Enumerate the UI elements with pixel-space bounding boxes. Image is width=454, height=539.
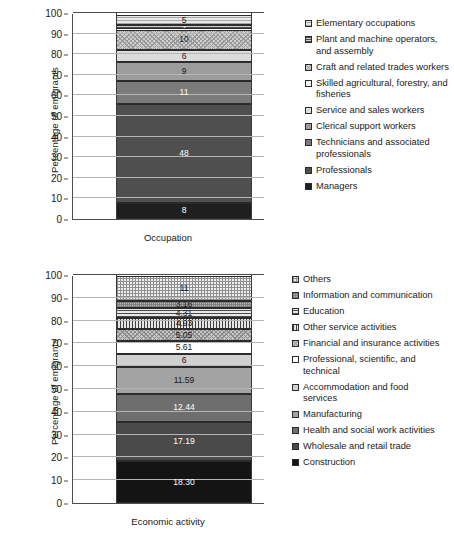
bar-segment[interactable]: 11 — [117, 81, 251, 104]
legend-item-label: Elementary occupations — [316, 18, 415, 30]
legend-item-label: Craft and related trades workers — [316, 62, 449, 74]
bar-segment[interactable]: 12.44 — [117, 394, 251, 422]
legend-item[interactable]: Education — [292, 306, 441, 318]
bar-segment-value: 11.59 — [174, 376, 195, 385]
bar-segment[interactable]: 3.16 — [117, 301, 251, 308]
legend-item[interactable]: Managers — [305, 181, 454, 193]
y-axis-tick-mark — [64, 96, 68, 97]
bar-segment[interactable]: 48 — [117, 104, 251, 203]
legend-item-label: Clerical support workers — [316, 121, 416, 133]
legend-item[interactable]: Service and sales workers — [305, 105, 454, 117]
legend-item[interactable]: Construction — [292, 457, 441, 469]
legend-swatch-icon — [292, 308, 299, 315]
legend-item-label: Technicians and associated professionals — [316, 137, 454, 160]
y-axis-tick-label: 80 — [51, 317, 62, 327]
legend-item[interactable]: Wholesale and retail trade — [292, 441, 441, 453]
legend-swatch-icon — [292, 324, 299, 331]
gridline — [73, 136, 264, 137]
bar-segment-value: 12.44 — [173, 403, 194, 412]
y-axis-tick-label: 10 — [51, 194, 62, 204]
legend-swatch-icon — [292, 443, 299, 450]
legend-item-label: Wholesale and retail trade — [303, 441, 411, 453]
gridline — [73, 297, 264, 298]
y-axis-tick-mark — [64, 276, 68, 277]
bar-segment-value: 11 — [180, 88, 189, 97]
bar-segment[interactable]: 5 — [117, 15, 251, 25]
legend-item[interactable]: Manufacturing — [292, 409, 441, 421]
legend-item-label: Construction — [303, 457, 355, 469]
bar-segment-value: 6 — [182, 356, 187, 365]
legend-item[interactable]: Craft and related trades workers — [305, 62, 454, 74]
y-axis-tick-label: 100 — [45, 9, 62, 19]
y-axis-tick-label: 90 — [51, 30, 62, 40]
legend-item[interactable]: Health and social work activities — [292, 425, 441, 437]
y-axis-tick-label: 0 — [56, 499, 62, 509]
y-axis-tick-label: 50 — [51, 385, 62, 395]
bar-segment-value: 11 — [180, 284, 189, 293]
gridline — [73, 74, 264, 75]
bar-segment[interactable]: 4.31 — [117, 308, 251, 318]
legend-swatch-icon — [292, 292, 299, 299]
legend-item[interactable]: Other service activities — [292, 322, 441, 334]
legend-item[interactable]: Technicians and associated professionals — [305, 137, 454, 160]
legend-item-label: Information and communication — [303, 290, 433, 302]
bar-segment[interactable]: 11.59 — [117, 367, 251, 393]
y-axis-tick-mark — [64, 367, 68, 368]
gridline — [73, 94, 264, 95]
legend-item-label: Accommodation and food services — [303, 382, 441, 405]
chart-occupation: Percentage of emigrants 0102030405060708… — [0, 0, 454, 262]
legend-item[interactable]: Professionals — [305, 165, 454, 177]
bar-segment[interactable]: 8 — [117, 203, 251, 219]
y-axis-tick-label: 20 — [51, 174, 62, 184]
y-axis-tick-mark — [64, 14, 68, 15]
y-axis-tick-label: 30 — [51, 153, 62, 163]
y-axis-tick-label: 80 — [51, 50, 62, 60]
legend-swatch-icon — [305, 36, 312, 43]
gridline — [73, 197, 264, 198]
y-axis-ticks-occupation: 0102030405060708090100 — [26, 14, 68, 220]
legend-swatch-icon — [305, 64, 312, 71]
bar-segment[interactable]: 18.30 — [117, 461, 251, 503]
gridline — [73, 53, 264, 54]
stacked-bar-economic[interactable]: 18.3017.1912.4411.5965.615.054.934.313.1… — [116, 275, 252, 503]
bar-segment-value: 5 — [182, 16, 187, 25]
y-axis-ticks-economic: 0102030405060708090100 — [26, 276, 68, 504]
legend-item[interactable]: Accommodation and food services — [292, 382, 441, 405]
stacked-bar-occupation[interactable]: 848119601025 — [116, 13, 252, 219]
gridline — [73, 33, 264, 34]
legend-item[interactable]: Clerical support workers — [305, 121, 454, 133]
bar-segment[interactable]: 6 — [117, 50, 251, 62]
legend-item[interactable]: Professional, scientific, and technical — [292, 354, 441, 377]
legend-item-label: Education — [303, 306, 344, 318]
bar-segment[interactable]: 5.05 — [117, 329, 251, 341]
legend-item[interactable]: Information and communication — [292, 290, 441, 302]
legend-item[interactable]: Plant and machine operators, and assembl… — [305, 34, 454, 57]
bar-segment-value: 6 — [182, 52, 187, 61]
y-axis-tick-label: 70 — [51, 339, 62, 349]
legend-item[interactable]: Financial and insurance activities — [292, 338, 441, 350]
y-axis-tick-mark — [64, 117, 68, 118]
bar-segment-value: 18.30 — [173, 478, 194, 487]
gridline — [73, 365, 264, 366]
gridline — [73, 388, 264, 389]
y-axis-tick-label: 40 — [51, 133, 62, 143]
bar-segment[interactable]: 17.19 — [117, 422, 251, 461]
legend-swatch-icon — [292, 427, 299, 434]
bar-segment[interactable]: 9 — [117, 62, 251, 81]
legend-swatch-icon — [292, 384, 299, 391]
y-axis-tick-mark — [64, 34, 68, 35]
gridline — [73, 342, 264, 343]
y-axis-tick-mark — [64, 412, 68, 413]
y-axis-tick-label: 60 — [51, 91, 62, 101]
y-axis-tick-mark — [64, 55, 68, 56]
legend-item[interactable]: Others — [292, 274, 441, 286]
bar-segment-value: 3.16 — [176, 301, 193, 308]
legend-item[interactable]: Skilled agricultural, forestry, and fish… — [305, 78, 454, 101]
y-axis-tick-mark — [64, 75, 68, 76]
plot-wrapper-economic: Percentage of emigrants 0102030405060708… — [0, 262, 454, 539]
legend-swatch-icon — [292, 459, 299, 466]
legend-item-label: Other service activities — [303, 322, 397, 334]
legend-swatch-icon — [292, 356, 299, 363]
bar-segment[interactable]: 2 — [117, 25, 251, 29]
legend-item[interactable]: Elementary occupations — [305, 18, 454, 30]
